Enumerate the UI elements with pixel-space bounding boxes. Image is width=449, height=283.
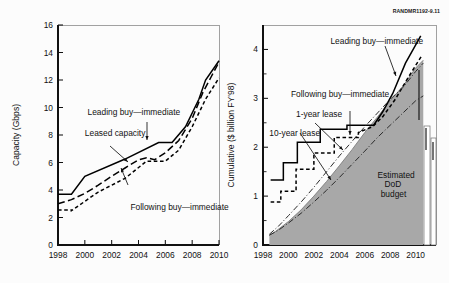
x-tick-label: 2000 [76,250,95,260]
annotation-leader-line [385,46,396,76]
y-tick-label: 0 [253,240,258,250]
y-tick-label: 4 [253,44,258,54]
x-tick-label: 2000 [279,250,298,260]
y-tick-label: 4 [48,185,53,195]
x-tick-label: 2006 [156,250,175,260]
x-tick-label: 2008 [381,250,400,260]
x-tick-label: 2004 [129,250,148,260]
annotation-arrow-head [145,136,148,140]
x-tick-label: 1998 [254,250,273,260]
y-axis-title: Capacity (Gbps) [11,104,21,166]
chart-annotation: budget [381,189,407,199]
y-tick-label: 16 [44,20,54,30]
chart-annotation: 10-year lease [269,128,320,138]
chart-annotation: 1-year lease [296,109,342,119]
figure-svg: 0246810121416199820002002200420062008201… [0,0,449,283]
annotation-leader-line [300,133,331,180]
y-axis-title: Cumulative ($ billion FY'98) [226,82,236,187]
right-edge-bar-1 [424,126,430,245]
y-tick-label: 14 [44,48,54,58]
x-tick-label: 2008 [183,250,202,260]
figure-container: RANDMR1192-9.11 024681012141619982000200… [0,0,449,283]
series-line [58,78,219,211]
chart-annotation: Leading buy—immediate [330,36,423,46]
x-tick-label: 2010 [210,250,229,260]
chart-annotation: Following buy—immediate [130,202,229,212]
x-tick-label: 2004 [330,250,349,260]
x-tick-label: 2002 [102,250,121,260]
figure-credit: RANDMR1192-9.11 [393,8,440,14]
y-tick-label: 8 [48,130,53,140]
y-tick-label: 3 [253,93,258,103]
y-tick-label: 1 [253,191,258,201]
x-tick-label: 2006 [355,250,374,260]
chart-annotation: Leased capacity [85,128,146,138]
annotation-arrow-head [393,72,396,76]
x-tick-label: 2010 [406,250,425,260]
chart-annotation: Following buy—immediate [291,89,390,99]
x-tick-label: 2002 [305,250,324,260]
y-tick-label: 12 [44,75,54,85]
annotation-arrow-head [348,131,351,135]
y-tick-label: 2 [253,142,258,152]
chart-annotation: DoD [384,179,401,189]
y-tick-label: 6 [48,158,53,168]
chart-cumulative-cost: 012341998200020022004200620082010Cumulat… [226,25,436,260]
y-tick-label: 0 [48,240,53,250]
chart-capacity-gbps: 0246810121416199820002002200420062008201… [11,20,229,260]
y-tick-label: 10 [44,103,54,113]
chart-annotation: Estimated [377,170,415,180]
chart-annotation: Leading buy—immediate [88,107,181,117]
y-tick-label: 2 [48,213,53,223]
x-tick-label: 1998 [49,250,68,260]
